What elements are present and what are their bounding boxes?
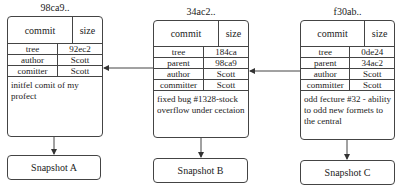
- connector-arrows: [0, 0, 400, 188]
